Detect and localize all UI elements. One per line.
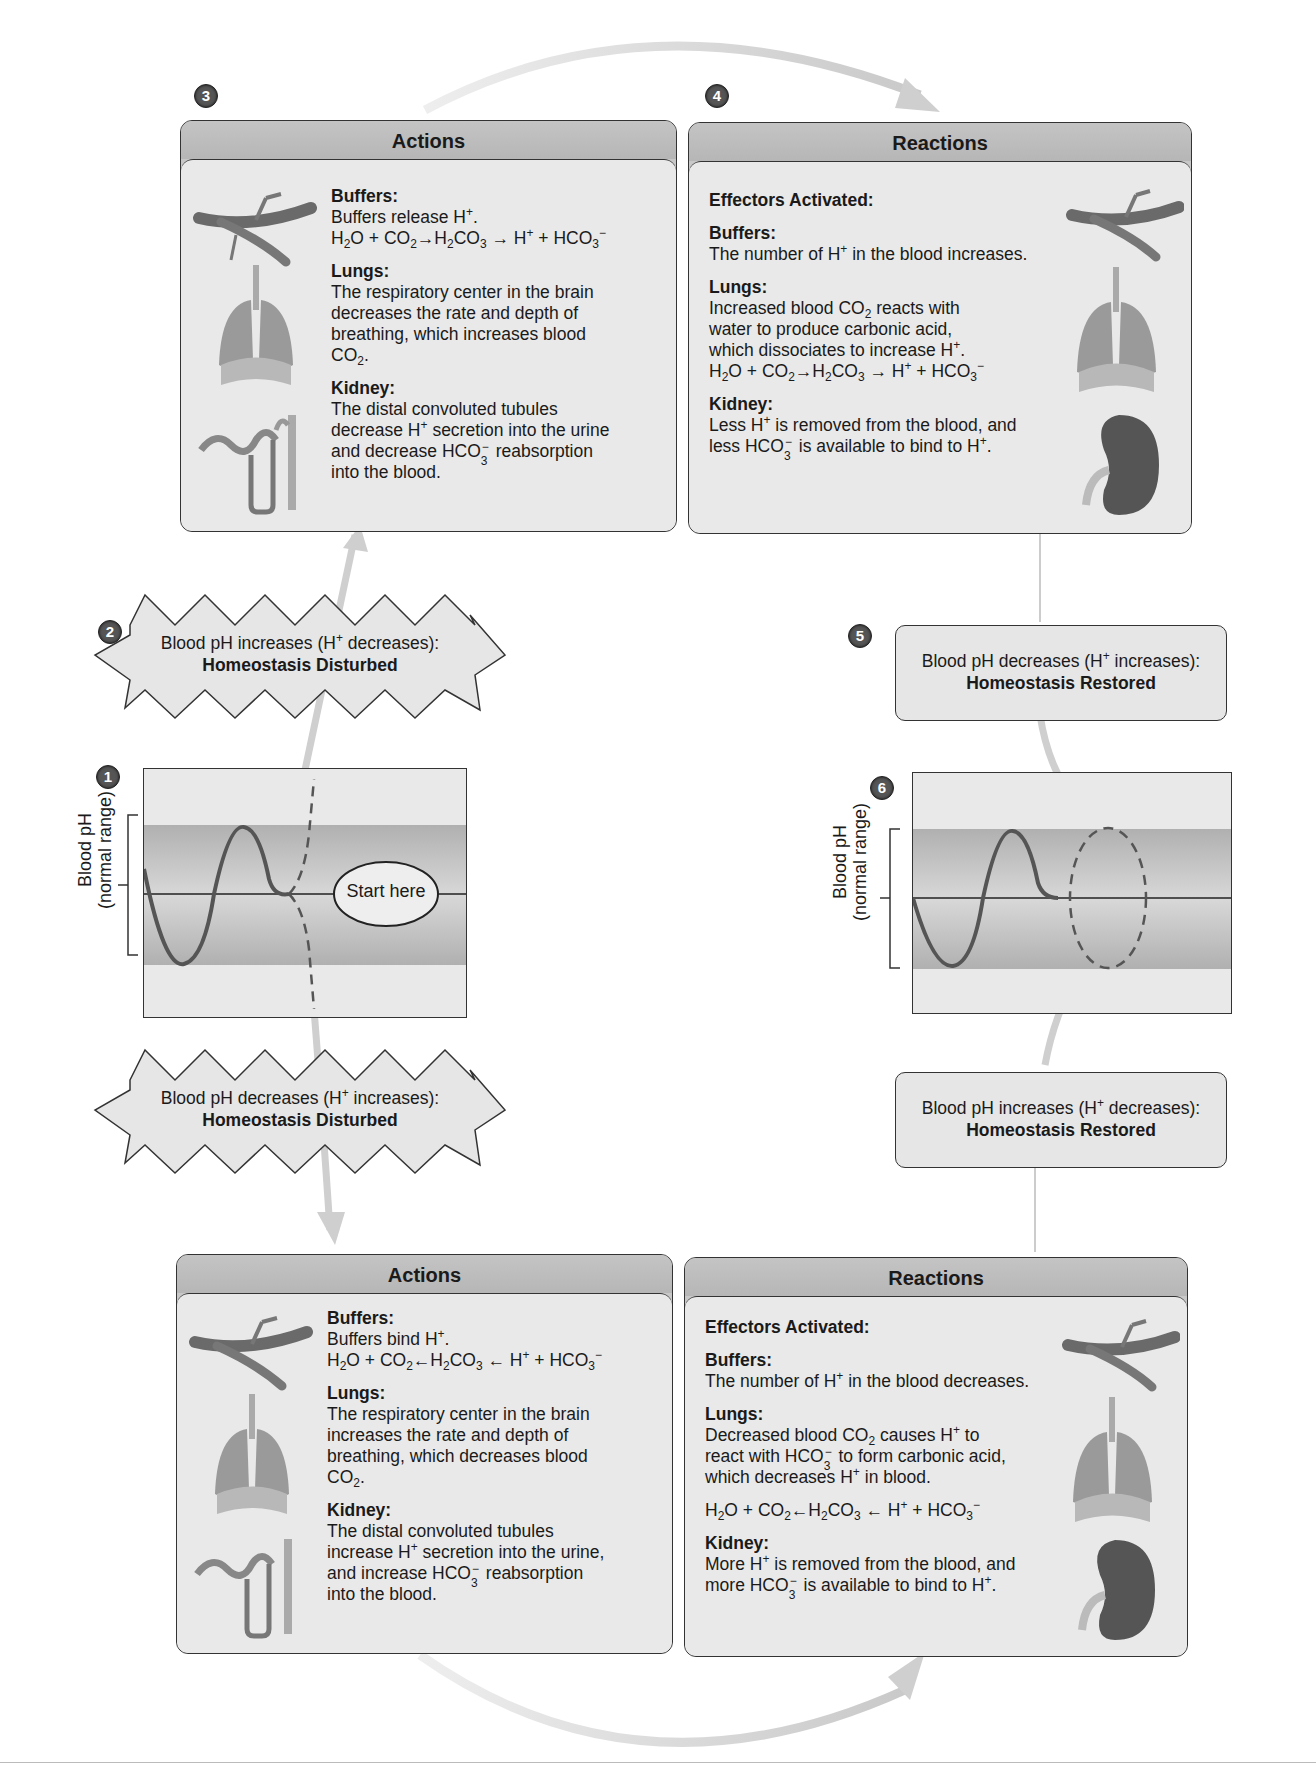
section-heading: Lungs: (331, 261, 609, 282)
section-heading: Buffers: (331, 186, 609, 207)
text-line: The distal convoluted tubules (331, 399, 609, 420)
section-heading: Buffers: (705, 1350, 1029, 1371)
nephron-icon (192, 1534, 312, 1639)
panel-title: Actions (177, 1255, 672, 1293)
bottom-actions-text: Buffers:Buffers bind H+.H2O + CO2←H2CO3 … (327, 1308, 604, 1605)
status-label: Homeostasis Disturbed (90, 1109, 510, 1131)
nephron-icon (196, 410, 316, 515)
top-actions-text: Buffers:Buffers release H+.H2O + CO2→H2C… (331, 186, 609, 483)
normal-range-bracket (878, 826, 908, 971)
panel-title: Reactions (685, 1258, 1187, 1296)
text-line: CO2. (331, 345, 609, 366)
lungs-icon (1069, 267, 1164, 397)
panel-title: Reactions (689, 123, 1191, 161)
blood-vessel-icon (191, 190, 321, 270)
section-heading: Effectors Activated: (705, 1317, 1029, 1338)
graph-right-ylabel: Blood pH(normal range) (830, 787, 870, 937)
text-line: increase H+ secretion into the urine, (327, 1542, 604, 1563)
lungs-icon (211, 265, 301, 390)
text-line: into the blood. (331, 462, 609, 483)
text-line: Buffers bind H+. (327, 1329, 604, 1350)
text-line: H2O + CO2←H2CO3 ← H+ + HCO3− (705, 1500, 1029, 1521)
text-line: Buffers release H+. (331, 207, 609, 228)
bottom-reactions-panel: Reactions Effectors Activated:Buffers:Th… (684, 1257, 1188, 1657)
status-label: Homeostasis Restored (896, 1119, 1226, 1141)
graph-left-ylabel: Blood pH(normal range) (75, 775, 115, 925)
top-arc-arrow (425, 46, 920, 110)
blood-ph-graph-left: Start here (143, 768, 467, 1018)
section-heading: Lungs: (327, 1383, 604, 1404)
text-line: breathing, which increases blood (331, 324, 609, 345)
text-line: H2O + CO2→H2CO3 → H+ + HCO3− (331, 228, 609, 249)
text-line: decreases the rate and depth of (331, 303, 609, 324)
homeostasis-restored-increase: Blood pH increases (H+ decreases): Homeo… (895, 1072, 1227, 1168)
text-line: Less H+ is removed from the blood, and (709, 415, 1027, 436)
top-reactions-text: Effectors Activated:Buffers:The number o… (709, 190, 1027, 457)
section-heading: Kidney: (327, 1500, 604, 1521)
text-line: H2O + CO2→H2CO3 → H+ + HCO3− (709, 361, 1027, 382)
bottom-arc-arrow (420, 1655, 905, 1742)
panel-body: Buffers:Buffers release H+.H2O + CO2→H2C… (181, 159, 676, 531)
text-line: into the blood. (327, 1584, 604, 1605)
text-line: decrease H+ secretion into the urine (331, 420, 609, 441)
blood-vessel-icon (1064, 187, 1184, 267)
text-line: less HCO−3 is available to bind to H+. (709, 436, 1027, 457)
blood-ph-graph-right (912, 772, 1232, 1014)
section-heading: Effectors Activated: (709, 190, 1027, 211)
text-line: react with HCO−3 to form carbonic acid, (705, 1446, 1029, 1467)
text-line: The number of H+ in the blood increases. (709, 244, 1027, 265)
text-line: The distal convoluted tubules (327, 1521, 604, 1542)
step-5-marker: 5 (848, 624, 872, 648)
start-here-label: Start here (334, 881, 438, 902)
kidney-icon (1070, 1535, 1160, 1645)
blood-vessel-icon (187, 1314, 317, 1394)
text-line: Increased blood CO2 reacts with (709, 298, 1027, 319)
ph-wave (913, 773, 1231, 1013)
panel-title: Actions (181, 121, 676, 159)
status-label: Homeostasis Restored (896, 672, 1226, 694)
footer-divider (0, 1762, 1316, 1763)
top-actions-panel: Actions Buffers:Buffers release H+.H2O +… (180, 120, 677, 532)
text-line: water to produce carbonic acid, (709, 319, 1027, 340)
status-label: Homeostasis Disturbed (90, 654, 510, 676)
text-line: CO2. (327, 1467, 604, 1488)
text-line: breathing, which decreases blood (327, 1446, 604, 1467)
text-line: more HCO−3 is available to bind to H+. (705, 1575, 1029, 1596)
text-line: The number of H+ in the blood decreases. (705, 1371, 1029, 1392)
top-reactions-panel: Reactions Effectors Activated:Buffers:Th… (688, 122, 1192, 534)
text-line: H2O + CO2←H2CO3 ← H+ + HCO3− (327, 1350, 604, 1371)
section-heading: Kidney: (709, 394, 1027, 415)
section-heading: Lungs: (709, 277, 1027, 298)
bottom-actions-panel: Actions Buffers:Buffers bind H+.H2O + CO… (176, 1254, 673, 1654)
section-heading: Buffers: (709, 223, 1027, 244)
text-line: which dissociates to increase H+. (709, 340, 1027, 361)
section-heading: Kidney: (705, 1533, 1029, 1554)
text-line: and increase HCO−3 reabsorption (327, 1563, 604, 1584)
homeostasis-disturbed-decrease: Blood pH decreases (H+ increases): Homeo… (90, 1045, 510, 1175)
blood-vessel-icon (1060, 1317, 1180, 1397)
text-line: The respiratory center in the brain (327, 1404, 604, 1425)
section-heading: Buffers: (327, 1308, 604, 1329)
normal-range-bracket (116, 810, 146, 960)
lungs-icon (1065, 1397, 1160, 1527)
section-heading: Lungs: (705, 1404, 1029, 1425)
step-3-marker: 3 (194, 84, 218, 108)
bottom-reactions-text: Effectors Activated:Buffers:The number o… (705, 1317, 1029, 1596)
kidney-icon (1074, 410, 1164, 520)
panel-body: Buffers:Buffers bind H+.H2O + CO2←H2CO3 … (177, 1293, 672, 1653)
text-line: and decrease HCO−3 reabsorption (331, 441, 609, 462)
panel-body: Effectors Activated:Buffers:The number o… (685, 1296, 1187, 1656)
homeostasis-restored-decrease: Blood pH decreases (H+ increases): Homeo… (895, 625, 1227, 721)
text-line: The respiratory center in the brain (331, 282, 609, 303)
text-line: More H+ is removed from the blood, and (705, 1554, 1029, 1575)
text-line: increases the rate and depth of (327, 1425, 604, 1446)
text-line: Decreased blood CO2 causes H+ to (705, 1425, 1029, 1446)
section-heading: Kidney: (331, 378, 609, 399)
panel-body: Effectors Activated:Buffers:The number o… (689, 161, 1191, 533)
step-4-marker: 4 (705, 84, 729, 108)
text-line: which decreases H+ in blood. (705, 1467, 1029, 1488)
step-6-marker: 6 (870, 776, 894, 800)
lungs-icon (207, 1394, 297, 1519)
homeostasis-disturbed-increase: Blood pH increases (H+ decreases): Homeo… (90, 590, 510, 720)
